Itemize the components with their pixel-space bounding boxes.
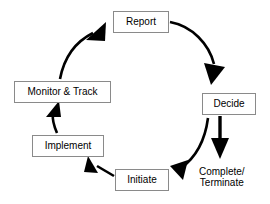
edge-decide-to-initiate-path (181, 118, 208, 168)
node-implement-label: Implement (45, 141, 92, 151)
node-initiate[interactable]: Initiate (115, 169, 169, 191)
node-report[interactable]: Report (113, 11, 169, 33)
edge-report-to-decide (170, 22, 225, 85)
node-monitor-track[interactable]: Monitor & Track (14, 81, 111, 103)
node-decide-label: Decide (213, 99, 244, 109)
edge-monitor-to-report (60, 22, 106, 79)
label-complete-terminate-line-2: Terminate (199, 177, 245, 188)
edge-initiate-to-implement (84, 156, 114, 176)
node-report-label: Report (126, 17, 156, 27)
edge-decide-to-initiate-arrowhead (170, 160, 188, 180)
edge-decide-to-terminate-arrowhead (211, 138, 229, 159)
edge-report-to-decide-path (170, 22, 214, 64)
edge-initiate-to-implement-arrowhead (84, 156, 98, 173)
edge-decide-to-terminate (211, 116, 229, 159)
node-decide[interactable]: Decide (202, 93, 256, 115)
edge-implement-to-monitor (46, 101, 61, 133)
node-initiate-label: Initiate (127, 175, 156, 185)
edge-implement-to-monitor-arrowhead (46, 101, 61, 117)
label-complete-terminate: Complete/ Terminate (199, 166, 245, 188)
edge-initiate-to-implement-path (97, 166, 114, 176)
edge-monitor-to-report-arrowhead (86, 22, 106, 41)
process-cycle-diagram: Report Decide Initiate Implement Monitor… (0, 0, 270, 204)
node-implement[interactable]: Implement (32, 135, 104, 157)
node-monitor-track-label: Monitor & Track (27, 87, 97, 97)
edge-report-to-decide-arrowhead (204, 63, 225, 85)
label-complete-terminate-line-1: Complete/ (199, 166, 245, 177)
